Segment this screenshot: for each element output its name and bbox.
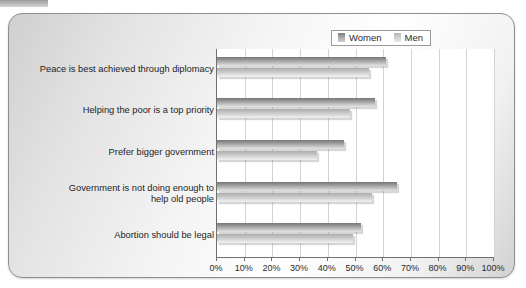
bar-men: [217, 109, 350, 118]
x-axis-tick: [216, 257, 217, 261]
category-label: Government is not doing enough tohelp ol…: [14, 183, 214, 205]
category-label-line: help old people: [14, 194, 214, 205]
x-axis-tick-label: 30%: [290, 263, 308, 273]
gridline: [439, 49, 440, 257]
category-label-line: Peace is best achieved through diplomacy: [14, 63, 214, 74]
chart-screenshot: Women Men Peace is best achieved through…: [0, 0, 526, 288]
bar-men: [217, 68, 369, 77]
x-axis-tick-label: 80%: [429, 263, 447, 273]
legend-label-men: Men: [405, 33, 423, 43]
x-axis-tick: [465, 257, 466, 261]
x-axis-tick: [438, 257, 439, 261]
x-axis-tick: [271, 257, 272, 261]
legend-item-women: Women: [338, 33, 382, 43]
legend-swatch-men-icon: [394, 33, 401, 42]
x-axis-tick: [299, 257, 300, 261]
category-label: Helping the poor is a top priority: [14, 105, 214, 116]
gridline: [494, 49, 495, 257]
bar-women: [217, 182, 397, 191]
x-axis-tick-label: 40%: [318, 263, 336, 273]
x-axis-tick-label: 90%: [456, 263, 474, 273]
bar-men: [217, 151, 317, 160]
category-label-line: Abortion should be legal: [14, 230, 214, 241]
category-axis-labels: Peace is best achieved through diplomacy…: [9, 49, 214, 257]
x-axis-tick-label: 100%: [481, 263, 504, 273]
x-axis-tick: [355, 257, 356, 261]
category-label-line: Helping the poor is a top priority: [14, 105, 214, 116]
x-axis-tick-label: 0%: [209, 263, 222, 273]
x-axis-tick: [410, 257, 411, 261]
category-label: Peace is best achieved through diplomacy: [14, 63, 214, 74]
chart-legend: Women Men: [331, 30, 431, 46]
bar-men: [217, 193, 372, 202]
gridline: [383, 49, 384, 257]
bar-men: [217, 234, 353, 243]
x-axis-tick-label: 60%: [373, 263, 391, 273]
bar-women: [217, 98, 375, 107]
x-axis-tick: [244, 257, 245, 261]
legend-item-men: Men: [394, 33, 423, 43]
legend-label-women: Women: [349, 33, 382, 43]
plot-area: [216, 49, 494, 257]
x-axis-tick-label: 70%: [401, 263, 419, 273]
x-axis-tick: [493, 257, 494, 261]
x-axis-tick: [382, 257, 383, 261]
category-label-line: Prefer bigger government: [14, 147, 214, 158]
top-left-tab-marker: [0, 0, 48, 7]
category-label: Prefer bigger government: [14, 147, 214, 158]
gridline: [411, 49, 412, 257]
category-label: Abortion should be legal: [14, 230, 214, 241]
category-label-line: Government is not doing enough to: [14, 183, 214, 194]
bar-women: [217, 140, 344, 149]
bar-women: [217, 223, 361, 232]
bar-women: [217, 57, 386, 66]
gridline: [466, 49, 467, 257]
x-axis-tick-label: 10%: [235, 263, 253, 273]
x-axis-tick-label: 20%: [262, 263, 280, 273]
chart-panel: Women Men Peace is best achieved through…: [8, 13, 515, 278]
x-axis-tick: [327, 257, 328, 261]
x-axis-tick-label: 50%: [345, 263, 363, 273]
legend-swatch-women-icon: [338, 33, 345, 42]
